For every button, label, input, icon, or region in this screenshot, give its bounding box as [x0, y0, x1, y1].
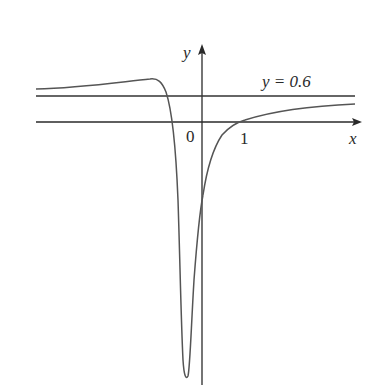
x-axis-label: x — [349, 130, 357, 147]
curve-right-branch — [203, 104, 355, 195]
asymptote-label: y = 0.6 — [262, 73, 311, 90]
tick-label-one: 1 — [240, 130, 249, 147]
origin-label: 0 — [186, 128, 195, 145]
curve-left-branch — [36, 79, 203, 378]
y-axis-label: y — [183, 44, 191, 61]
